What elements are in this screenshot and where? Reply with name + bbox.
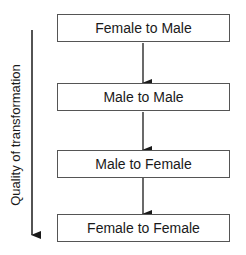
box-male-to-female: Male to Female — [57, 150, 230, 178]
quality-axis-label: Quality of transformation — [8, 64, 23, 206]
box-female-to-female: Female to Female — [57, 214, 230, 242]
box-male-to-male: Male to Male — [57, 83, 230, 111]
box-female-to-male: Female to Male — [57, 14, 230, 42]
